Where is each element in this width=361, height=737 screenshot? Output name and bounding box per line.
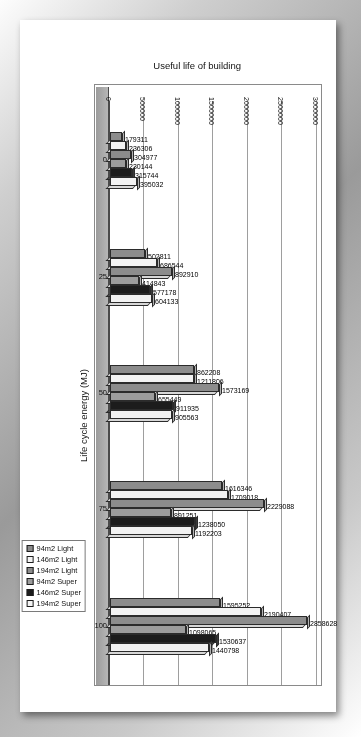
bar-face xyxy=(110,643,209,652)
legend-item: 146m2 Super xyxy=(27,588,81,597)
bar xyxy=(110,616,307,625)
bar xyxy=(110,508,171,517)
bar-value-label: 395032 xyxy=(140,181,177,188)
y-axis-tick-label: 1000000 xyxy=(173,97,182,125)
bar-face xyxy=(110,598,220,607)
chart-stage: 0500000100000015000002000000250000030000… xyxy=(20,20,336,712)
bar-value-label: 1440798 xyxy=(212,647,249,654)
bar xyxy=(110,526,192,535)
bar-face xyxy=(110,132,122,141)
bar-face xyxy=(110,526,192,535)
legend-label: 146m2 Light xyxy=(37,555,78,564)
y-axis-tick-label: 3000000 xyxy=(311,97,320,125)
bar xyxy=(110,598,220,607)
bar-value-label: 1573169 xyxy=(222,387,259,394)
bar xyxy=(110,634,216,643)
bar-face xyxy=(110,625,186,634)
bar-value-label: 577178 xyxy=(153,289,190,296)
bar xyxy=(110,177,137,186)
bar-top-face xyxy=(106,652,208,655)
bar-face xyxy=(110,401,173,410)
legend-swatch xyxy=(27,556,34,563)
bar-value-label: 905563 xyxy=(175,414,212,421)
bar-value-label: 1530637 xyxy=(219,638,256,645)
legend-label: 194m2 Super xyxy=(37,599,81,608)
bar-value-label: 604133 xyxy=(155,298,192,305)
bar-top-face xyxy=(106,303,151,306)
chart-page: 0500000100000015000002000000250000030000… xyxy=(20,20,336,712)
bar-top-face xyxy=(106,419,171,422)
legend-item: 194m2 Light xyxy=(27,566,81,575)
bar-value-label: 892910 xyxy=(175,271,212,278)
bar xyxy=(110,643,209,652)
legend-label: 94m2 Light xyxy=(37,544,74,553)
bar xyxy=(110,159,126,168)
x-axis-title: Useful life of building xyxy=(153,60,241,71)
y-axis-tick-label: 2000000 xyxy=(242,97,251,125)
bar-value-label: 2229088 xyxy=(267,503,304,510)
bar-face xyxy=(110,285,150,294)
bar-face xyxy=(110,499,264,508)
bar-face xyxy=(110,258,157,267)
bar-face xyxy=(110,508,171,517)
value-gridline xyxy=(282,101,283,685)
bar-value-label: 911935 xyxy=(176,405,213,412)
plot-area: 0500000100000015000002000000250000030000… xyxy=(97,87,321,685)
bar xyxy=(110,276,139,285)
y-axis-tick-label: 0 xyxy=(104,97,113,101)
legend-item: 146m2 Light xyxy=(27,555,81,564)
y-axis-title: Life cycle energy (MJ) xyxy=(78,369,89,462)
bar xyxy=(110,499,264,508)
bar-face xyxy=(110,177,137,186)
bar-value-label: 315744 xyxy=(135,172,172,179)
bar xyxy=(110,490,228,499)
bar xyxy=(110,132,122,141)
bar-face xyxy=(110,383,219,392)
bar xyxy=(110,607,261,616)
bar xyxy=(110,168,132,177)
bar xyxy=(110,285,150,294)
legend-label: 94m2 Super xyxy=(37,577,77,586)
x-axis-tick-label: 75 xyxy=(99,504,107,513)
bar xyxy=(110,258,157,267)
bar xyxy=(110,383,219,392)
bar xyxy=(110,365,194,374)
legend-swatch xyxy=(27,567,34,574)
bar xyxy=(110,392,155,401)
legend-swatch xyxy=(27,578,34,585)
bar-face xyxy=(110,374,194,383)
legend-swatch xyxy=(27,600,34,607)
page-frame: 0500000100000015000002000000250000030000… xyxy=(0,0,361,737)
bar xyxy=(110,401,173,410)
legend-swatch xyxy=(27,545,34,552)
bar-top-face xyxy=(106,186,136,189)
bar-value-label: 862208 xyxy=(197,369,234,376)
bar xyxy=(110,625,186,634)
legend-item: 94m2 Super xyxy=(27,577,81,586)
bar-face xyxy=(110,159,126,168)
bar xyxy=(110,249,145,258)
bar-face xyxy=(110,517,195,526)
bar xyxy=(110,517,195,526)
bar-value-label: 236306 xyxy=(129,145,166,152)
bar xyxy=(110,141,126,150)
bar-face xyxy=(110,141,126,150)
bar xyxy=(110,294,152,303)
legend-item: 194m2 Super xyxy=(27,599,81,608)
bar-face xyxy=(110,490,228,499)
bar-face xyxy=(110,481,222,490)
bar xyxy=(110,481,222,490)
bar-face xyxy=(110,294,152,303)
bar-face xyxy=(110,410,172,419)
bar-top-face xyxy=(106,535,191,538)
legend-label: 194m2 Light xyxy=(37,566,78,575)
y-axis-tick-label: 2500000 xyxy=(277,97,286,125)
bar-face xyxy=(110,607,261,616)
bar-face xyxy=(110,365,194,374)
y-axis-tick-label: 1500000 xyxy=(208,97,217,125)
bar-value-label: 2858628 xyxy=(310,620,347,627)
bar xyxy=(110,374,194,383)
x-axis-tick-label: 25 xyxy=(99,272,107,281)
value-gridline xyxy=(316,101,317,685)
bar-face xyxy=(110,616,307,625)
